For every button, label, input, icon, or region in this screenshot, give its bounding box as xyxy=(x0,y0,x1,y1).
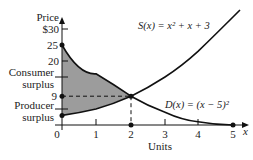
x-axis-variable: x xyxy=(242,125,248,137)
x-tick-label-4: 4 xyxy=(195,128,201,140)
y-tick-label-30: $30 xyxy=(43,23,60,35)
supply-curve-label: S(x) = x² + x + 3 xyxy=(138,20,210,32)
consumer-surplus-label-line2: surplus xyxy=(22,78,54,90)
point-x-5 xyxy=(231,123,236,128)
x-tick-label-2: 2 xyxy=(128,128,134,140)
producer-surplus-label-line1: Producer xyxy=(14,99,54,111)
consumer-surplus-label-line1: Consumer xyxy=(9,66,55,78)
x-tick-label-1: 1 xyxy=(93,128,99,140)
point-demand-intercept xyxy=(60,43,65,48)
y-axis-arrow-icon xyxy=(59,17,65,24)
x-tick-label-5: 5 xyxy=(230,128,236,140)
surplus-shaded-region xyxy=(62,45,131,115)
point-x-2 xyxy=(129,123,134,128)
demand-curve-label: D(x) = (x − 5)² xyxy=(164,99,230,111)
surplus-chart: Price $30 25 20 Consumer surplus 9 Produ… xyxy=(0,0,253,160)
point-price-9 xyxy=(60,94,65,99)
point-supply-intercept xyxy=(60,113,65,118)
y-tick-label-25: 25 xyxy=(47,39,59,51)
x-axis-title: Units xyxy=(148,140,172,152)
producer-surplus-label-line2: surplus xyxy=(22,111,54,123)
point-equilibrium xyxy=(129,94,134,99)
x-tick-label-3: 3 xyxy=(162,128,168,140)
y-axis-title: Price xyxy=(36,11,59,23)
x-tick-label-0: 0 xyxy=(54,128,60,140)
